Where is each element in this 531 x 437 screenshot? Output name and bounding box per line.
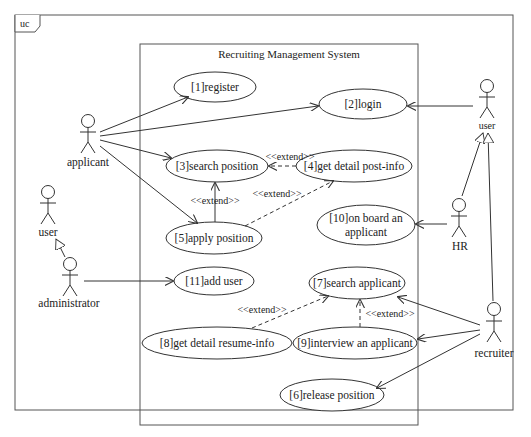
use-case-add-user[interactable]: [11]add user <box>174 267 254 295</box>
use-case-release-position[interactable]: [6]release position <box>280 379 384 411</box>
svg-text:<<extend>>: <<extend>> <box>252 188 302 199</box>
actor-label: administrator <box>38 297 99 309</box>
use-case-interview-applicant[interactable]: [9]interview an applicant <box>293 327 417 359</box>
actor-label: user <box>38 226 57 238</box>
generalization-hr-user <box>462 133 483 196</box>
use-case-label: [4]get detail post-info <box>304 160 405 173</box>
actor-recruiter[interactable]: recruiter <box>475 303 514 360</box>
actor-label: user <box>479 120 496 131</box>
actor-label: applicant <box>67 156 110 169</box>
use-case-label: [11]add user <box>185 275 243 287</box>
use-case-apply-position[interactable]: [5]apply position <box>166 222 262 254</box>
use-case-label: [3]search position <box>176 160 259 173</box>
actor-user-right[interactable]: user <box>479 80 496 132</box>
use-case-get-detail-resume-info[interactable]: [8]get detail resume-info <box>142 327 292 359</box>
use-case-diagram: uc Recruiting Management System [1]regis… <box>0 0 531 437</box>
generalization-administrator-user <box>56 239 65 257</box>
use-case-login[interactable]: [2]login <box>319 89 407 119</box>
extend-5-to-3: <<extend>> <box>190 183 240 222</box>
actor-user-left[interactable]: user <box>38 186 57 239</box>
actor-hr[interactable]: HR <box>451 199 468 253</box>
svg-text:<<extend>>: <<extend>> <box>190 195 240 206</box>
frame-tag: uc <box>20 18 30 29</box>
use-case-label-line2: applicant <box>345 226 388 239</box>
use-case-label: [1]register <box>191 81 239 94</box>
svg-text:<<extend>>: <<extend>> <box>237 304 287 315</box>
use-case-label: [6]release position <box>289 389 375 402</box>
use-case-search-applicant[interactable]: [7]search applicant <box>309 267 405 299</box>
use-case-label: [2]login <box>344 98 381 111</box>
use-case-label: [9]interview an applicant <box>297 337 413 350</box>
system-title: Recruiting Management System <box>218 48 360 60</box>
actor-administrator[interactable]: administrator <box>38 258 99 310</box>
extend-8-to-7: <<extend>> <box>237 296 328 328</box>
actor-applicant[interactable]: applicant <box>67 115 110 170</box>
use-case-search-position[interactable]: [3]search position <box>166 150 268 182</box>
actor-label: recruiter <box>475 347 514 359</box>
actor-label: HR <box>452 240 468 252</box>
use-case-label-line1: [10]on board an <box>329 212 403 224</box>
svg-text:<<extend>>: <<extend>> <box>265 151 315 162</box>
use-case-on-board-applicant[interactable]: [10]on board an applicant <box>317 205 415 245</box>
svg-text:<<extend>>: <<extend>> <box>365 308 415 319</box>
use-case-label: [7]search applicant <box>313 277 402 290</box>
use-case-label: [5]apply position <box>175 232 254 245</box>
extend-9-to-7: <<extend>> <box>360 300 415 327</box>
generalization-recruiter-user <box>488 133 493 301</box>
use-case-label: [8]get detail resume-info <box>160 337 275 350</box>
